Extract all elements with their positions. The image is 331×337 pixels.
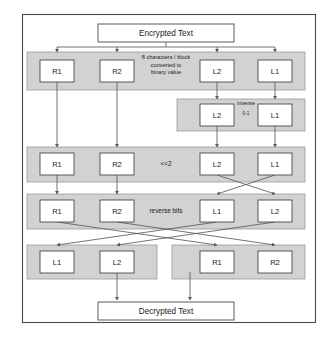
block-recombine-r2-label: R2 — [270, 258, 280, 267]
block-reverse-l2-label: L2 — [271, 207, 279, 216]
block-split-r1-label: R1 — [52, 67, 62, 76]
split-note-line-2: converted to — [151, 62, 182, 68]
block-split-r2-label: R2 — [112, 67, 122, 76]
reverse-note-line-1: reverse bits — [149, 207, 182, 214]
block-reverse-r1-label: R1 — [52, 207, 62, 216]
block-inverse-l1-label: L1 — [271, 111, 279, 120]
block-shift-r2-label: R2 — [112, 160, 122, 169]
inverse-note-line-1: inverse — [237, 100, 255, 106]
block-recombine-r1-label: R1 — [212, 258, 222, 267]
terminal-encrypted-text-label: Encrypted Text — [139, 29, 194, 38]
block-shift-r1-label: R1 — [52, 160, 62, 169]
terminal-decrypted-text-label: Decrypted Text — [139, 307, 194, 316]
flow-canvas: Encrypted Text 8 characters / block conv… — [0, 0, 331, 337]
decryption-flow-diagram: Encrypted Text 8 characters / block conv… — [0, 0, 331, 337]
block-recombine-l2-label: L2 — [113, 258, 121, 267]
block-reverse-r2-label: R2 — [112, 207, 122, 216]
block-split-l1-label: L1 — [271, 67, 279, 76]
block-shift-l1-label: L1 — [271, 160, 279, 169]
split-note-line-3: binary value — [151, 69, 181, 75]
inverse-note-line-2: 0-1 — [243, 111, 250, 116]
block-inverse-l2-label: L2 — [213, 111, 221, 120]
split-note-line-1: 8 characters / block — [142, 54, 191, 60]
block-recombine-l1-label: L1 — [53, 258, 61, 267]
block-reverse-l1-label: L1 — [213, 207, 221, 216]
block-shift-l2-label: L2 — [213, 160, 221, 169]
block-split-l2-label: L2 — [213, 67, 221, 76]
shift-note-line-1: <<2 — [160, 160, 171, 167]
